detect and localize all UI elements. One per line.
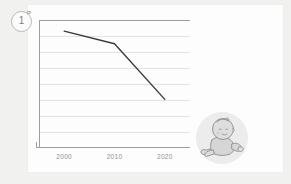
slide-canvas: 1 g 2000 2010 2020 xyxy=(0,0,291,184)
x-tick-label: 2000 xyxy=(47,153,81,160)
x-tick-label: 2020 xyxy=(148,153,182,160)
x-tick-label: 2010 xyxy=(98,153,132,160)
line-chart: g 2000 2010 2020 xyxy=(39,20,190,147)
origin-tick-mark xyxy=(36,142,37,148)
slide-number-badge: 1 xyxy=(11,11,32,32)
series-trend xyxy=(39,20,190,147)
x-axis-line xyxy=(36,147,190,148)
y-axis-unit-label: g xyxy=(26,11,32,14)
baby-icon xyxy=(194,110,250,166)
crawling-baby-illustration xyxy=(194,110,250,166)
